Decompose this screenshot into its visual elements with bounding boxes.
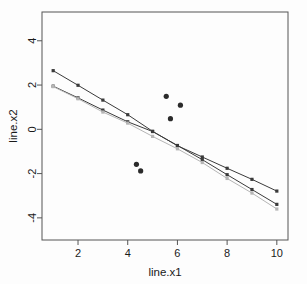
- x-axis-title: line.x1: [148, 266, 181, 278]
- series-point-marker: [176, 147, 179, 150]
- y-tick-label: 0: [26, 126, 38, 132]
- scatter-point: [164, 94, 169, 99]
- series-point-marker: [250, 188, 253, 191]
- y-tick-label: -2: [26, 169, 38, 179]
- scatter-line-chart: 246810 420-2-4 line.x1 line.x2: [0, 0, 307, 284]
- series-point-marker: [176, 144, 179, 147]
- scatter-point: [168, 116, 173, 121]
- series-point-marker: [151, 135, 154, 138]
- series-point-marker: [201, 161, 204, 164]
- x-tick-label: 6: [174, 247, 180, 259]
- series-point-marker: [52, 69, 55, 72]
- series-point-marker: [52, 85, 55, 88]
- series-point-marker: [275, 203, 278, 206]
- scatter-point: [134, 162, 139, 167]
- series-point-marker: [226, 173, 229, 176]
- x-tick-label: 8: [224, 247, 230, 259]
- series-point-marker: [275, 207, 278, 210]
- series-point-marker: [250, 178, 253, 181]
- series-point-marker: [76, 84, 79, 87]
- series-point-marker: [101, 110, 104, 113]
- series-point-marker: [275, 189, 278, 192]
- x-tick-label: 10: [271, 247, 283, 259]
- series-point-marker: [201, 158, 204, 161]
- scatter-point: [138, 168, 143, 173]
- series-point-marker: [226, 167, 229, 170]
- series-point-marker: [126, 122, 129, 125]
- x-tick-label: 4: [125, 247, 131, 259]
- y-tick-label: -4: [26, 213, 38, 223]
- series-point-marker: [126, 113, 129, 116]
- scatter-point: [178, 103, 183, 108]
- x-tick-label: 2: [75, 247, 81, 259]
- series-point-marker: [76, 97, 79, 100]
- y-tick-label: 4: [26, 38, 38, 44]
- series-point-marker: [250, 191, 253, 194]
- y-axis-title: line.x2: [7, 109, 19, 142]
- y-tick-label: 2: [26, 82, 38, 88]
- chart-plot-area: 246810 420-2-4 line.x1 line.x2: [0, 0, 307, 284]
- series-point-marker: [101, 99, 104, 102]
- chart-background: [0, 0, 307, 284]
- series-point-marker: [226, 177, 229, 180]
- series-point-marker: [151, 130, 154, 133]
